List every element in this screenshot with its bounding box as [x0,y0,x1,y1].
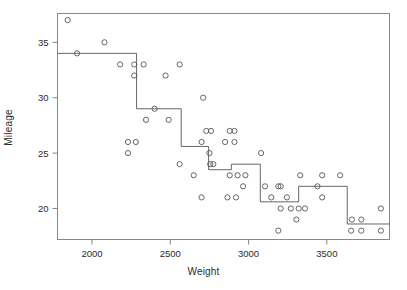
x-tick-label: 3000 [238,248,259,259]
x-tick-label: 3500 [316,248,337,259]
x-tick-label: 2500 [160,248,181,259]
y-tick-label: 35 [38,37,49,48]
x-axis-label: Weight [0,266,407,277]
y-tick-label: 30 [38,92,49,103]
plot-border [58,14,390,240]
x-tick-label: 2000 [81,248,102,259]
y-tick-label: 25 [38,148,49,159]
chart-figure: 2000250030003500 20253035 Weight Mileage [0,0,407,290]
plot-frame [58,14,390,240]
x-axis-ticks: 2000250030003500 [81,240,337,259]
y-axis-label: Mileage [3,98,14,158]
y-tick-label: 20 [38,203,49,214]
y-axis-ticks: 20253035 [38,37,58,214]
scatter-plot-canvas: 2000250030003500 20253035 [0,0,407,290]
